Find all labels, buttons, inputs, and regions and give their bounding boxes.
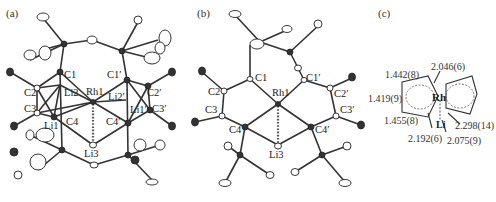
figure-canvas: (a) [0,0,496,202]
label-Li1: Li1 [44,120,59,131]
panel-c-label: (c) [378,7,391,20]
right-ring-delocalization [446,84,474,108]
label-C4: C4 [66,116,79,127]
crystal-structure-figure: (a) [0,0,496,202]
label-Rh1: Rh1 [272,87,290,98]
bond-length-li-c: 2.075(9) [447,135,481,147]
bond-length-rh-c4: 2.192(6) [408,133,442,145]
panel-b: (b) [192,7,365,187]
label-C3-prime: C3′ [152,103,167,114]
panel-a: (a) [6,7,176,185]
label-Rh1: Rh1 [86,86,104,97]
label-Li3: Li3 [269,149,284,160]
rh-atom-label: Rh [432,91,446,103]
label-C1-prime: C1′ [107,69,122,80]
label-C4-prime: C4′ [106,116,121,127]
panel-c: (c) Rh Li 1.442(8) 2.046(6) 1.419(9) 1.4… [368,7,494,147]
label-C1: C1 [255,72,267,83]
label-C2-prime: C2′ [147,87,162,98]
bond-length-bottom: 1.455(8) [384,115,418,127]
left-ring-delocalization [406,85,434,109]
bond-length-top: 1.442(8) [385,69,419,81]
bond-length-left: 1.419(9) [368,93,402,105]
label-C2: C2 [208,86,220,97]
label-Li1-prime: Li1′ [130,104,147,115]
panel-b-label: (b) [197,7,210,20]
label-C3: C3 [205,104,217,115]
label-C1-prime: C1′ [306,72,321,83]
panel-a-atoms [7,13,176,185]
label-Li2: Li2 [64,87,79,98]
bond-length-rh-c1: 2.046(6) [431,61,465,73]
bond-length-rh-li: 2.298(14) [455,120,494,132]
label-C1: C1 [64,69,76,80]
label-C4: C4 [229,124,242,135]
label-C2-prime: C2′ [334,88,349,99]
label-Li2-prime: Li2′ [108,91,125,102]
arrow-rh-c4 [428,113,432,128]
label-C4-prime: C4′ [315,124,330,135]
label-C3-prime: C3′ [340,104,355,115]
label-Li3: Li3 [84,148,99,159]
label-C3: C3 [24,103,36,114]
li-atom-label: Li [436,119,446,130]
label-C2: C2 [24,87,36,98]
panel-a-label: (a) [6,7,19,20]
arrow-rh-c1 [434,71,440,83]
